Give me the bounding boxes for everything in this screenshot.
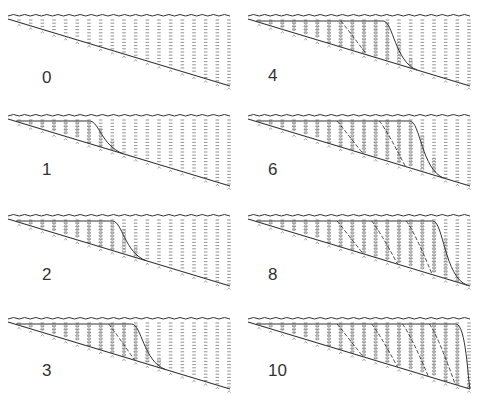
water-surface [8, 318, 230, 320]
water-surface [8, 215, 230, 217]
stage-label: 3 [42, 361, 51, 381]
panel-stage-3: 3 [0, 303, 238, 405]
sea-floor-line [248, 19, 470, 86]
panel-stage-8: 8 [240, 200, 477, 302]
stage-label: 2 [42, 265, 51, 285]
cross-section-diagram [240, 0, 477, 102]
water-surface [248, 115, 470, 117]
stage-label: 1 [42, 160, 51, 180]
water-surface [248, 15, 470, 17]
stage-label: 10 [268, 361, 287, 381]
cross-section-diagram [240, 303, 477, 405]
panel-stage-10: 10 [240, 303, 477, 405]
stage-label: 0 [42, 68, 51, 88]
stage-label: 6 [268, 160, 277, 180]
panel-stage-6: 6 [240, 100, 477, 202]
cross-section-diagram [0, 303, 238, 405]
panel-stage-2: 2 [0, 200, 238, 302]
cross-section-diagram [0, 200, 238, 302]
stage-label: 4 [268, 66, 277, 86]
sea-floor-line [248, 119, 470, 186]
water-surface [248, 215, 470, 217]
delta-progradation-figure: 012346810 [0, 0, 477, 415]
water-surface [8, 15, 230, 17]
panel-stage-4: 4 [240, 0, 477, 102]
cross-section-diagram [240, 200, 477, 302]
water-surface [8, 115, 230, 117]
panel-stage-0: 0 [0, 0, 238, 102]
cross-section-diagram [0, 0, 238, 102]
cross-section-diagram [240, 100, 477, 202]
panel-stage-1: 1 [0, 100, 238, 202]
sea-floor-line [248, 219, 470, 286]
stage-label: 8 [268, 265, 277, 285]
water-surface [248, 318, 470, 320]
cross-section-diagram [0, 100, 238, 202]
